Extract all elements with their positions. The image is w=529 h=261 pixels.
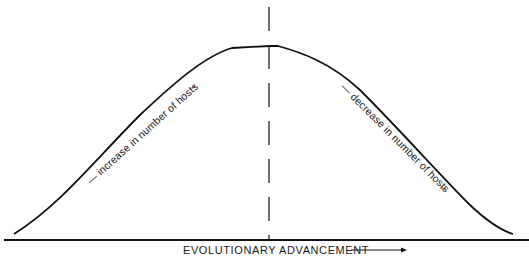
host-count-curve	[14, 46, 513, 234]
x-axis-label: EVOLUTIONARY ADVANCEMENT	[183, 244, 369, 256]
diagram-canvas	[0, 0, 529, 261]
x-axis-arrow-head-icon	[401, 248, 407, 253]
